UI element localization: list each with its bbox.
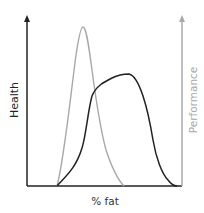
y-axis-right-arrow-icon — [179, 15, 185, 22]
chart-canvas — [0, 0, 204, 213]
y-axis-right-label: Performance — [187, 67, 199, 134]
series-performance-curve — [57, 27, 124, 186]
y-axis-left-label: Health — [8, 82, 21, 118]
series-health-curve — [57, 74, 177, 186]
y-axis-left-arrow-icon — [24, 15, 30, 22]
x-axis-label: % fat — [91, 195, 119, 207]
